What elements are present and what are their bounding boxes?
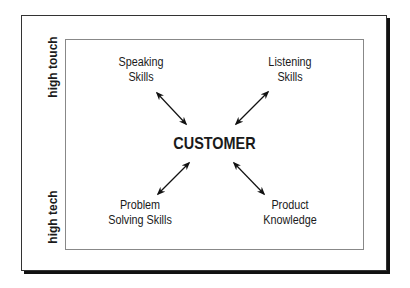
arrows-layer (0, 0, 410, 288)
arrow-product-customer (234, 163, 264, 194)
arrow-speaking-customer (157, 93, 186, 124)
arrow-listening-customer (236, 92, 268, 124)
arrow-problem-customer (158, 163, 189, 194)
